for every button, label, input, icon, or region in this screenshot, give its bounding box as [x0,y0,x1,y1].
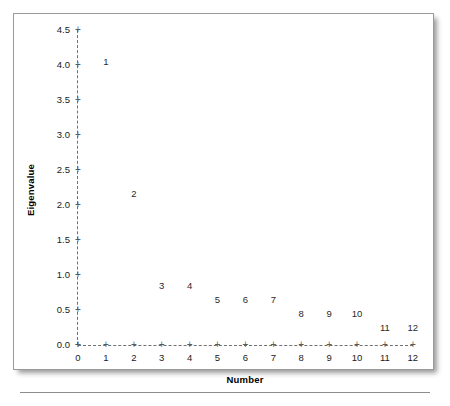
data-point: 4 [187,281,192,291]
y-tick-label: 1.5 [57,235,70,245]
scree-plot: +0.0+0.5+1.0+1.5+2.0+2.5+3.0+3.5+4.0+4.5… [0,0,450,406]
y-tick-label: 3.0 [57,130,70,140]
y-tick-label: 0.5 [57,305,70,315]
y-tick-glyph: + [75,165,81,175]
data-point: 12 [408,323,419,333]
x-tick-label: 9 [326,353,331,363]
y-tick-glyph: + [75,270,81,280]
x-tick-glyph: + [354,340,360,350]
y-tick-label: 1.0 [57,270,70,280]
x-tick-label: 2 [131,353,136,363]
data-point: 6 [243,295,248,305]
x-tick-label: 1 [103,353,108,363]
y-tick-label: 4.5 [57,25,70,35]
x-tick-label: 7 [271,353,276,363]
x-tick-glyph: + [187,340,193,350]
y-tick-label: 3.5 [57,95,70,105]
data-point: 11 [380,323,390,333]
y-tick-glyph: + [75,200,81,210]
y-axis-line [77,30,78,345]
x-tick-label: 0 [75,353,80,363]
y-tick-glyph: + [75,235,81,245]
x-tick-label: 12 [408,353,419,363]
y-tick-glyph: + [75,130,81,140]
data-point: 1 [103,57,108,67]
x-tick-glyph: + [382,340,388,350]
data-point: 7 [271,295,276,305]
x-tick-label: 4 [187,353,192,363]
y-tick-glyph: + [75,25,81,35]
x-tick-glyph: + [410,340,416,350]
x-tick-label: 8 [299,353,304,363]
x-tick-glyph: + [242,340,248,350]
y-tick-glyph: + [75,60,81,70]
y-tick-label: 4.0 [57,60,70,70]
x-tick-glyph: + [103,340,109,350]
data-point: 3 [159,281,164,291]
x-tick-label: 3 [159,353,164,363]
data-point: 2 [131,189,136,199]
x-tick-glyph: + [75,340,81,350]
x-tick-label: 11 [380,353,390,363]
y-axis-title: Eigenvalue [25,164,36,216]
x-tick-glyph: + [131,340,137,350]
bottom-divider [20,392,430,393]
x-tick-glyph: + [159,340,165,350]
x-axis-title: Number [226,374,263,385]
y-tick-label: 2.0 [57,200,70,210]
y-tick-glyph: + [75,305,81,315]
y-tick-glyph: + [75,95,81,105]
x-tick-glyph: + [270,340,276,350]
x-tick-glyph: + [326,340,332,350]
x-tick-label: 6 [243,353,248,363]
x-tick-label: 5 [215,353,220,363]
data-point: 9 [326,309,331,319]
y-tick-label: 0.0 [57,340,70,350]
x-tick-glyph: + [298,340,304,350]
data-point: 10 [352,309,363,319]
x-tick-label: 10 [352,353,363,363]
data-point: 5 [215,295,220,305]
x-tick-glyph: + [215,340,221,350]
y-tick-label: 2.5 [57,165,70,175]
data-point: 8 [299,309,304,319]
